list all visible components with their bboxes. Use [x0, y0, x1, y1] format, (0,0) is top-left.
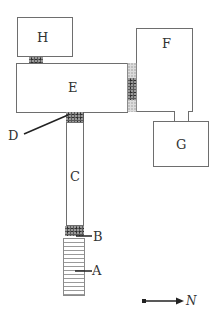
leader-d [24, 115, 68, 134]
label-b: B [93, 230, 103, 243]
annotation-lines [0, 0, 220, 324]
north-label: N [186, 295, 197, 307]
label-d: D [8, 129, 18, 142]
north-arrow-icon [176, 298, 184, 305]
label-a: A [92, 264, 101, 277]
north-arrow-tail [142, 299, 146, 303]
